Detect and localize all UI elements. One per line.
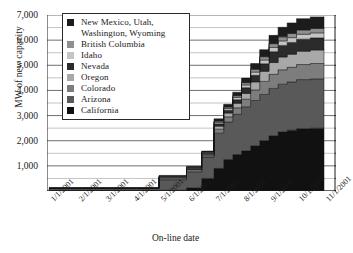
y-axis-tick-label: 6,000 [17,35,38,45]
legend-swatch-icon [67,41,74,48]
legend-item-label: Oregon [81,72,109,83]
y-axis-tick-label: 1,000 [17,161,38,171]
legend-item-california[interactable]: California [67,105,185,116]
legend-item-british-columbia[interactable]: British Columbia [67,39,185,50]
legend-swatch-icon [67,74,74,81]
legend-swatch-icon [67,52,74,59]
legend-item-oregon[interactable]: Oregon [67,72,185,83]
legend-swatch-icon [67,63,74,70]
legend-item-colorado[interactable]: Colorado [67,83,185,94]
x-axis-title: On-line date [0,233,351,243]
legend-item-idaho[interactable]: Idaho [67,50,185,61]
y-axis-tick-label: 2,000 [17,136,38,146]
legend-item-label: California [81,105,119,116]
y-axis-tick-label: 3,000 [17,111,38,121]
legend-item-label: British Columbia [81,39,145,50]
legend-item-label: New Mexico, Utah, Washington, Wyoming [81,17,165,39]
legend-item-nevada[interactable]: Nevada [67,61,185,72]
y-axis-tick-label: 5,000 [17,60,38,70]
chart-legend: New Mexico, Utah, Washington, WyomingBri… [62,13,190,120]
y-axis-tick-label: 4,000 [17,85,38,95]
legend-swatch-icon [67,19,74,26]
legend-swatch-icon [67,96,74,103]
legend-swatch-icon [67,107,74,114]
legend-item-arizona[interactable]: Arizona [67,94,185,105]
y-axis-tick-label: 7,000 [17,10,38,20]
y-axis-tick-labels: 1,0002,0003,0004,0005,0006,0007,000 [0,0,44,253]
legend-swatch-icon [67,85,74,92]
legend-item-label: Idaho [81,50,102,61]
legend-item-label: Nevada [81,61,109,72]
legend-item-label: Arizona [81,94,111,105]
legend-item-new-mexico-utah-washington-wyoming[interactable]: New Mexico, Utah, Washington, Wyoming [67,17,185,39]
legend-item-label: Colorado [81,83,115,94]
